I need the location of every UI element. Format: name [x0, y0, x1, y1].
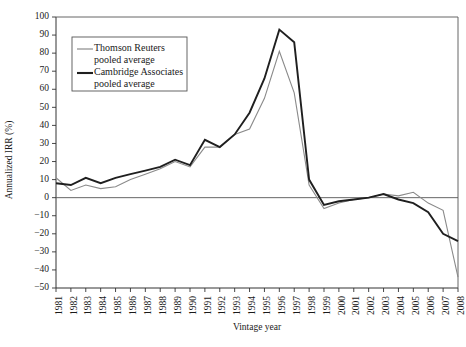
y-axis-title: Annualized IRR (%): [4, 121, 15, 200]
x-tick-label: 1982: [69, 296, 79, 315]
x-tick-label: 1988: [158, 296, 168, 315]
x-tick-label: 2001: [351, 296, 361, 315]
x-tick-label: 1995: [262, 296, 272, 315]
legend-label-thomson-line1: Thomson Reuters: [94, 42, 165, 53]
x-tick-label: 2005: [411, 296, 421, 315]
x-tick-label: 1996: [277, 296, 287, 315]
y-tick-label: 60: [40, 83, 50, 93]
x-tick-label: 1986: [128, 296, 138, 315]
y-tick-label: −40: [34, 264, 49, 274]
y-tick-label: 0: [44, 192, 49, 202]
chart-legend: Thomson Reuters pooled average Cambridge…: [72, 37, 187, 91]
legend-label-thomson-line2: pooled average: [94, 54, 155, 65]
x-tick-label: 2006: [426, 296, 436, 315]
y-tick-label: 10: [40, 174, 50, 184]
chart-figure: Annualized IRR (%) 100908070605040302010…: [0, 0, 466, 347]
chart-background: [0, 0, 466, 347]
legend-label-cambridge-line2: pooled average: [94, 78, 155, 89]
y-tick-label: 100: [35, 11, 50, 21]
x-tick-label: 1984: [98, 296, 108, 315]
x-tick-label: 2002: [366, 296, 376, 315]
x-tick-label: 2008: [456, 296, 466, 315]
y-tick-label: 90: [40, 29, 50, 39]
y-tick-label: −10: [34, 210, 49, 220]
x-tick-label: 2004: [396, 296, 406, 315]
x-tick-label: 2003: [381, 296, 391, 315]
x-tick-label: 1998: [307, 296, 317, 315]
y-tick-label: 20: [40, 156, 50, 166]
x-tick-label: 1999: [322, 296, 332, 315]
y-tick-label: −20: [34, 228, 49, 238]
x-tick-label: 1992: [217, 296, 227, 315]
x-tick-label: 1991: [203, 296, 213, 315]
legend-label-cambridge-line1: Cambridge Associates: [94, 66, 183, 77]
x-tick-label: 1987: [143, 296, 153, 315]
x-tick-label: 1990: [188, 296, 198, 315]
x-tick-label: 2007: [441, 296, 451, 315]
annualized-irr-line-chart: Annualized IRR (%) 100908070605040302010…: [0, 0, 466, 347]
x-tick-label: 2000: [337, 296, 347, 315]
x-tick-label: 1983: [83, 296, 93, 315]
x-tick-label: 1994: [247, 296, 257, 315]
y-tick-label: 40: [40, 120, 50, 130]
x-tick-label: 1989: [173, 296, 183, 315]
x-tick-label: 1993: [232, 296, 242, 315]
x-axis-title: Vintage year: [233, 322, 282, 332]
y-tick-label: 30: [40, 138, 50, 148]
y-tick-label: 70: [40, 65, 50, 75]
x-tick-label: 1985: [113, 296, 123, 315]
y-tick-label: 50: [40, 102, 50, 112]
y-tick-label: −30: [34, 246, 49, 256]
y-tick-label: −50: [34, 282, 49, 292]
x-tick-label: 1981: [54, 296, 64, 315]
y-tick-label: 80: [40, 47, 50, 57]
x-tick-label: 1997: [292, 296, 302, 315]
